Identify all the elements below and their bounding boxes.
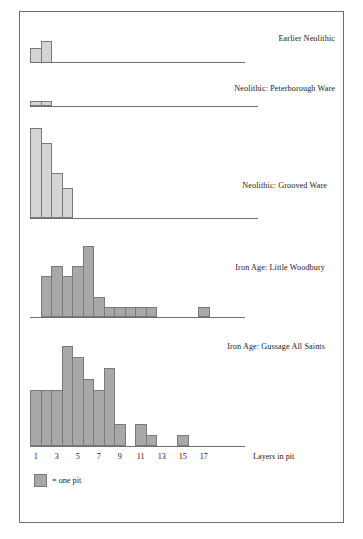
panel-peterborough-ware: Neolithic: Peterborough Ware [20,74,345,120]
panel-baseline [30,62,245,63]
panel-earlier-neolithic: Earlier Neolithic [20,12,345,74]
x-tick-label: 5 [71,452,85,461]
panel-bars [30,246,210,317]
x-tick-label: 7 [92,452,106,461]
x-tick-label: 1 [29,452,43,461]
x-axis-label: Layers in pit [253,452,294,461]
legend-swatch-icon [34,474,47,487]
panel-title-grooved-ware: Neolithic: Grooved Ware [242,181,327,190]
x-tick-label: 3 [50,452,64,461]
figure-page: Earlier Neolithic Neolithic: Peterboroug… [0,0,363,539]
bar [41,41,53,64]
bar [146,435,158,446]
x-axis-ticks: 1357911131517 [20,452,345,466]
x-tick-label: 11 [134,452,148,461]
panel-baseline [30,218,258,219]
panel-bars [30,128,73,218]
legend-label: = one pit [52,476,81,485]
bar [114,424,126,446]
figure-frame: Earlier Neolithic Neolithic: Peterboroug… [19,11,344,523]
bar [177,435,189,446]
legend: = one pit [34,474,81,487]
x-tick-label: 15 [176,452,190,461]
bar [198,307,210,317]
bar [62,188,74,218]
panel-title-earlier-neolithic: Earlier Neolithic [279,34,336,43]
panel-bars [30,346,210,446]
panel-little-woodbury: Iron Age: Little Woodbury [20,237,345,330]
panel-title-gussage-all-saints: Iron Age: Gussage All Saints [227,342,325,351]
panel-bars [30,74,52,106]
panel-baseline [30,317,245,318]
panel-title-peterborough-ware: Neolithic: Peterborough Ware [234,84,335,93]
panel-grooved-ware: Neolithic: Grooved Ware [20,120,345,237]
bar [146,307,158,317]
panel-bars [30,18,52,63]
x-tick-label: 17 [197,452,211,461]
panel-baseline [30,106,258,107]
x-tick-label: 9 [113,452,127,461]
x-tick-label: 13 [155,452,169,461]
panel-title-little-woodbury: Iron Age: Little Woodbury [235,263,325,272]
panel-baseline [30,446,245,447]
